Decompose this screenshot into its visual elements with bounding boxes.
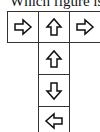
up-arrow-icon (44, 49, 64, 69)
grid-cell-r0-c2 (69, 11, 100, 43)
grid-cell-r0-c0 (7, 11, 39, 43)
grid-cell-r2-c1 (38, 74, 70, 107)
down-arrow-icon (44, 81, 64, 101)
grid-cell-r1-c1 (38, 42, 70, 75)
grid-cell-r3-c1 (38, 106, 70, 132)
left-arrow-icon (44, 111, 64, 131)
right-arrow-icon (75, 17, 95, 37)
up-arrow-icon (44, 17, 64, 37)
grid-cell-r0-c1 (38, 11, 70, 43)
right-arrow-icon (13, 17, 33, 37)
question-text: Which figure is (10, 0, 100, 10)
